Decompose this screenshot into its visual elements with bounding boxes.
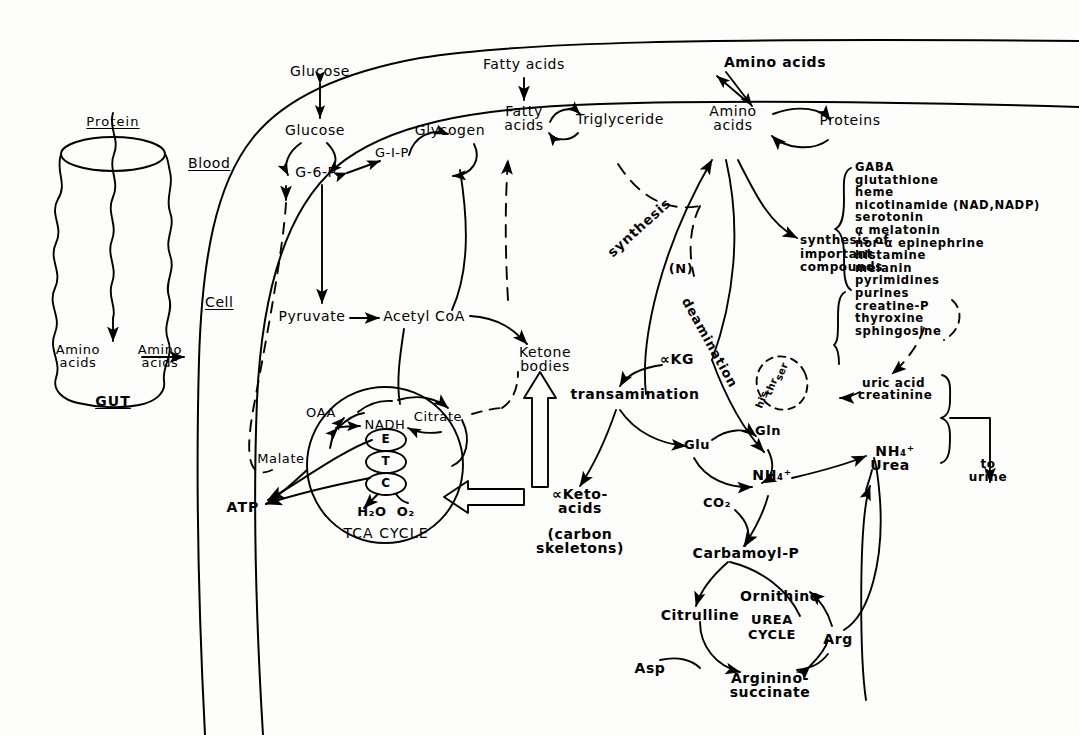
line-asp-to-argininosuccinate <box>660 658 700 668</box>
label-nh4-left: NH₄⁺ <box>752 468 791 482</box>
arrow-transamination-to-ketoacids <box>580 410 616 486</box>
label-citrulline: Citrulline <box>661 608 740 622</box>
label-etc-t: T <box>382 455 391 467</box>
arrow-nh4-to-right-nh4 <box>792 456 866 478</box>
label-urea-cycle-title: UREA CYCLE <box>748 613 796 642</box>
label-alpha-kg: ∝KG <box>660 352 694 366</box>
arrow-g6p-g1p <box>347 161 380 173</box>
label-glu: Glu <box>684 438 710 451</box>
label-cell: Cell <box>205 295 234 309</box>
label-tca-cycle: TCA CYCLE <box>343 526 428 540</box>
important-compound-item: histamine <box>855 249 1040 262</box>
metabolism-diagram-canvas: Protein Amino acids Amino acids GUT Bloo… <box>0 0 1079 735</box>
arrow-transamination-to-glu <box>620 410 686 446</box>
block-arrow-ketoacids-to-ketonebodies <box>524 372 556 487</box>
label-nadh: NADH <box>365 418 406 431</box>
label-atp: ATP <box>227 500 260 514</box>
label-triglyceride: Triglyceride <box>576 112 664 126</box>
arrow-citrate-to-nadh <box>408 428 441 433</box>
label-malate: Malate <box>257 452 304 465</box>
arrow-carbamoylp-to-citrulline <box>696 562 728 606</box>
label-argininosuccinate: Arginino- succinate <box>730 671 811 700</box>
label-amino-acids-cell: Amino acids <box>709 104 757 133</box>
label-oaa: OAA <box>306 406 336 419</box>
dashed-gluconeogenesis-from-malate <box>249 203 286 472</box>
label-g6p: G-6-P <box>295 165 336 179</box>
label-etc-c: C <box>381 477 390 489</box>
label-pyruvate: Pyruvate <box>278 309 345 323</box>
line-fattyacids-down <box>452 170 466 310</box>
dashed-ketone-link <box>502 372 518 408</box>
label-transamination: transamination <box>570 387 699 401</box>
label-blood: Blood <box>188 156 231 170</box>
label-ketone-bodies: Ketone bodies <box>519 345 571 374</box>
label-citrate: Citrate <box>414 410 462 423</box>
dashed-citrate-to-ketones <box>472 408 502 414</box>
label-proteins: Proteins <box>819 113 880 127</box>
label-urea: Urea <box>870 458 910 472</box>
label-asp: Asp <box>635 661 666 675</box>
arrow-aa-to-synthesis-compounds <box>738 160 797 238</box>
label-etc-e: E <box>382 433 391 445</box>
arrow-tg-to-fa <box>549 133 578 139</box>
label-gut: GUT <box>95 394 131 408</box>
important-compound-item: sphingosine <box>855 325 1040 338</box>
label-carbon-skeletons: (carbon skeletons) <box>536 527 624 556</box>
label-fatty-acids-blood: Fatty acids <box>483 57 565 71</box>
label-amino-acids-blood: Amino acids <box>724 55 826 69</box>
brace-important-compounds-lower <box>834 292 845 364</box>
arrow-akg-to-transamination <box>620 365 662 386</box>
dashed-acetylcoa-to-fattyacids <box>506 160 508 300</box>
label-glucose-cell: Glucose <box>285 123 345 137</box>
arrow-acetylcoa-to-ketones <box>470 316 527 344</box>
line-acetylcoa-into-tca <box>398 329 404 404</box>
important-compounds-list: GABAglutathionehemenicotinamide (NAD,NAD… <box>855 161 1040 337</box>
arrow-proteins-to-aa <box>772 136 828 147</box>
line-etc-o2 <box>396 494 408 503</box>
label-tca-products: H₂O O₂ <box>357 505 415 518</box>
label-co2: CO₂ <box>703 496 731 509</box>
label-glucose-blood: Glucose <box>290 64 350 78</box>
label-blood-amino-acids-gut: Amino acids <box>138 343 182 370</box>
important-compound-item: GABA <box>855 161 1040 174</box>
brace-to-urine <box>941 375 950 463</box>
label-arg: Arg <box>823 632 853 646</box>
label-ornithine: Ornithine <box>740 589 820 603</box>
important-compound-item: heme <box>855 186 1040 199</box>
arrow-glycogen-to-g1p <box>453 144 477 176</box>
arrow-to-citrate <box>398 397 448 408</box>
important-compound-item: α melatonin <box>855 224 1040 237</box>
label-fatty-acids-cell: Fatty acids <box>504 104 543 133</box>
label-carbamoyl-p: Carbamoyl-P <box>693 546 800 560</box>
line-argsucc-arg <box>797 654 828 670</box>
label-glycogen: Glycogen <box>415 123 485 137</box>
arrow-malate-oaa-head <box>330 418 344 448</box>
label-protein: Protein <box>86 115 139 128</box>
label-g1p: G-I-P <box>375 146 409 159</box>
label-nitrogen-marker: (N) <box>669 262 694 275</box>
label-to-urine: to urine <box>969 458 1007 484</box>
important-compound-item: thyroxine <box>855 312 1040 325</box>
line-aminoacids-to-deamination <box>712 160 734 360</box>
label-creatinine: creatinine <box>858 389 932 401</box>
label-keto-acids: ∝Keto- acids <box>552 487 608 516</box>
line-malate-cross <box>266 470 307 504</box>
arrow-citrulline-to-argininosuccinate <box>700 622 740 672</box>
label-acetyl-coa: Acetyl CoA <box>383 309 465 323</box>
arrow-to-creatinine <box>840 392 860 398</box>
arrow-glu-to-nh4 <box>694 458 752 487</box>
label-gut-amino-acids: Amino acids <box>56 343 100 370</box>
important-compound-item: purines <box>855 287 1040 300</box>
label-gln: Gln <box>755 424 781 437</box>
line-oaa-citrate-top <box>358 401 392 412</box>
